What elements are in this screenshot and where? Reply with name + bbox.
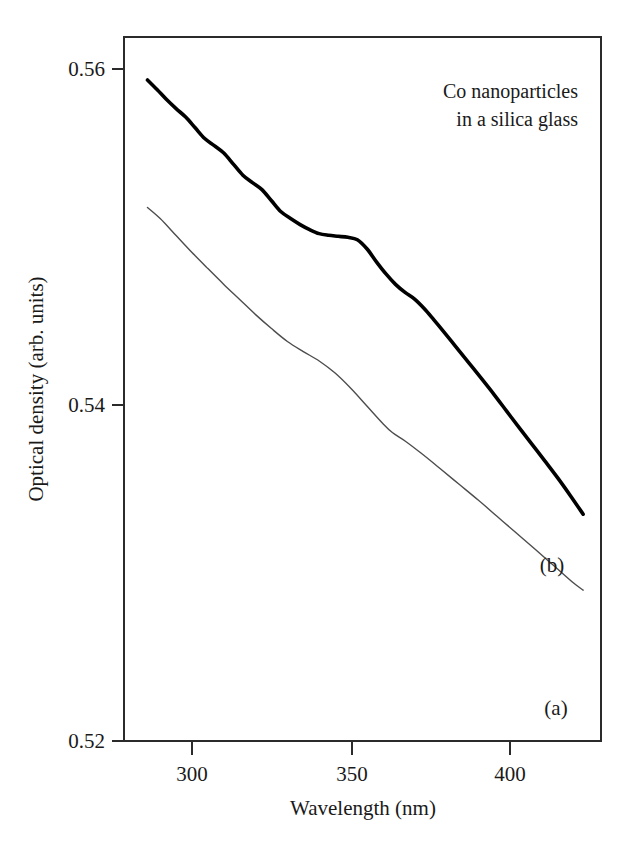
y-axis-title: Optical density (arb. units) (24, 276, 48, 501)
x-tick-label-300: 300 (176, 762, 208, 786)
series-b-label: (b) (540, 553, 565, 577)
y-tick-label-056: 0.56 (68, 57, 105, 81)
x-tick-label-350: 350 (336, 762, 368, 786)
annotation-line-1: Co nanoparticles (443, 80, 578, 103)
x-tick-label-400: 400 (494, 762, 526, 786)
y-tick-label-054: 0.54 (68, 393, 105, 417)
x-axis-title: Wavelength (nm) (290, 796, 436, 820)
y-tick-label-052: 0.52 (68, 729, 105, 753)
optical-density-spectrum-chart: 0.56 0.54 0.52 300 350 400 Wavelength (n… (0, 0, 635, 842)
series-a-label: (a) (544, 696, 567, 720)
annotation-line-2: in a silica glass (456, 108, 578, 131)
